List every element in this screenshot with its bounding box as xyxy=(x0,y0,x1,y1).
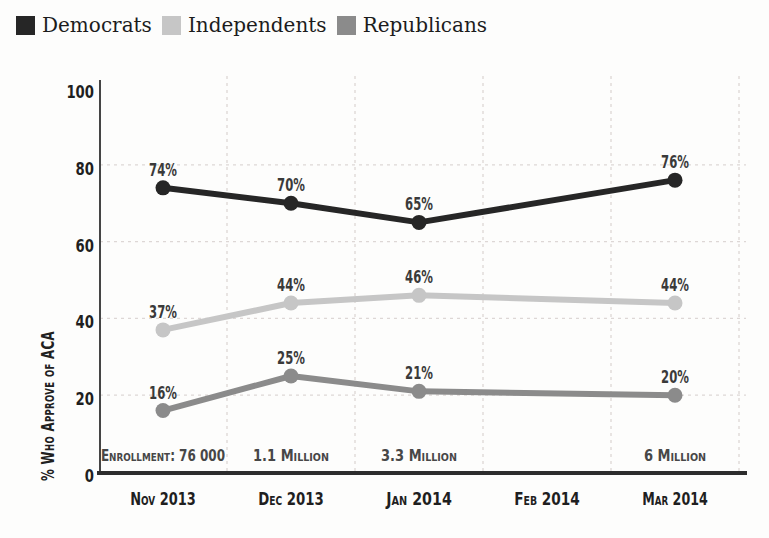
enrollment-label: 1.1 Million xyxy=(253,447,329,465)
data-point xyxy=(156,322,171,337)
data-label: 20% xyxy=(661,367,689,387)
y-tick-label: 0 xyxy=(85,466,94,486)
x-tick-label: Dec 2013 xyxy=(258,489,324,509)
data-label: 70% xyxy=(277,175,305,195)
legend-label: Independents xyxy=(188,13,327,37)
data-point xyxy=(284,296,299,311)
y-tick-label: 80 xyxy=(76,159,95,179)
legend-label: Democrats xyxy=(42,13,152,37)
legend: DemocratsIndependentsRepublicans xyxy=(16,13,487,37)
y-axis-ticks: 020406080100 xyxy=(66,82,94,486)
data-point xyxy=(668,173,683,188)
data-label: 44% xyxy=(661,275,689,295)
legend-swatch-icon xyxy=(337,16,356,35)
x-tick-label: Jan 2014 xyxy=(385,489,451,509)
x-tick-label: Nov 2013 xyxy=(130,489,196,509)
x-tick-label: Mar 2014 xyxy=(642,489,708,509)
data-point xyxy=(284,196,299,211)
data-point xyxy=(412,215,427,230)
data-point xyxy=(156,180,171,195)
x-tick-label: Feb 2014 xyxy=(514,489,580,509)
y-axis-title: % Who Approve of ACA xyxy=(37,331,58,481)
data-label: 25% xyxy=(277,348,305,368)
series-republicans: 16%25%21%20% xyxy=(149,348,689,418)
legend-swatch-icon xyxy=(16,16,35,35)
x-axis-ticks: Nov 2013Dec 2013Jan 2014Feb 2014Mar 2014 xyxy=(130,489,708,509)
enrollment-label: 6 Million xyxy=(644,447,706,465)
data-label: 21% xyxy=(405,363,433,383)
data-label: 37% xyxy=(149,302,177,322)
data-point xyxy=(668,296,683,311)
data-point xyxy=(668,388,683,403)
legend-item-independents: Independents xyxy=(162,13,327,37)
data-label: 65% xyxy=(405,194,433,214)
data-label: 44% xyxy=(277,275,305,295)
legend-swatch-icon xyxy=(162,16,181,35)
y-tick-label: 20 xyxy=(76,389,95,409)
legend-label: Republicans xyxy=(363,13,487,37)
enrollment-label: 3.3 Million xyxy=(381,447,457,465)
data-point xyxy=(412,288,427,303)
data-label: 46% xyxy=(405,267,433,287)
enrollment-annotations: Enrollment: 76 0001.1 Million3.3 Million… xyxy=(101,447,706,465)
legend-item-republicans: Republicans xyxy=(337,13,487,37)
series-independents: 37%44%46%44% xyxy=(149,267,689,337)
y-tick-label: 60 xyxy=(76,236,95,256)
data-label: 76% xyxy=(661,152,689,172)
chart-canvas: DemocratsIndependentsRepublicans 0204060… xyxy=(0,0,769,538)
legend-item-democrats: Democrats xyxy=(16,13,152,37)
series-democrats: 74%70%65%76% xyxy=(149,152,689,230)
data-label: 16% xyxy=(149,383,177,403)
data-point xyxy=(412,384,427,399)
y-tick-label: 100 xyxy=(66,82,94,102)
approval-line-chart: 02040608010074%70%65%76%37%44%46%44%16%2… xyxy=(0,0,769,538)
enrollment-label: Enrollment: 76 000 xyxy=(101,447,225,465)
data-label: 74% xyxy=(149,160,177,180)
data-point xyxy=(156,403,171,418)
data-point xyxy=(284,369,299,384)
y-tick-label: 40 xyxy=(76,312,95,332)
